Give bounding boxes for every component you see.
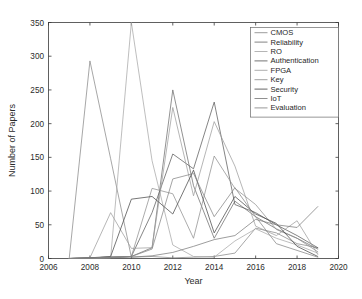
x-tick-label-6: 2018 xyxy=(288,263,307,272)
legend-label-security[interactable]: Security xyxy=(271,85,299,94)
y-tick-label-6: 300 xyxy=(30,52,44,61)
legend-label-evaluation[interactable]: Evaluation xyxy=(271,103,306,112)
x-tick-label-7: 2020 xyxy=(329,263,348,272)
y-tick-label-7: 350 xyxy=(30,19,44,28)
x-tick-label-3: 2012 xyxy=(164,263,183,272)
x-tick-label-4: 2014 xyxy=(205,263,224,272)
y-tick-label-3: 150 xyxy=(30,153,44,162)
x-tick-label-2: 2010 xyxy=(122,263,141,272)
y-tick-label-2: 100 xyxy=(30,187,44,196)
y-tick-label-5: 250 xyxy=(30,86,44,95)
legend-label-ro[interactable]: RO xyxy=(271,47,282,56)
x-tick-label-5: 2016 xyxy=(247,263,266,272)
chart-figure: 050100150200250300350 200620082010201220… xyxy=(0,0,362,299)
legend-label-key[interactable]: Key xyxy=(271,75,284,84)
legend-label-iot[interactable]: IoT xyxy=(271,94,282,103)
x-tick-label-0: 2006 xyxy=(39,263,58,272)
line-chart: 050100150200250300350 200620082010201220… xyxy=(0,0,362,299)
y-tick-label-4: 200 xyxy=(30,120,44,129)
x-tick-label-1: 2008 xyxy=(81,263,100,272)
x-axis-title: Year xyxy=(184,276,202,286)
legend-label-authentication[interactable]: Authentication xyxy=(271,56,319,65)
series-line-fpga xyxy=(69,107,318,258)
y-axis-title: Number of Papers xyxy=(7,103,17,177)
legend-label-fpga[interactable]: FPGA xyxy=(271,66,293,75)
legend-label-cmos[interactable]: CMOS xyxy=(271,28,294,37)
chart-legend[interactable]: CMOSReliabilityROAuthenticationFPGAKeySe… xyxy=(251,28,339,118)
y-tick-label-1: 50 xyxy=(35,221,45,230)
legend-label-reliability[interactable]: Reliability xyxy=(271,38,304,47)
series-line-key xyxy=(69,156,318,258)
